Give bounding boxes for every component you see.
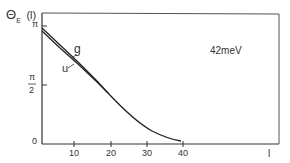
- x-tick-label-30: 30: [142, 148, 152, 158]
- x-tick-label-10: 10: [69, 148, 79, 158]
- u-leader: [68, 64, 74, 68]
- y-tick-label-zero: 0: [32, 136, 37, 146]
- theta-symbol: Θ: [6, 7, 16, 22]
- curve-g: [42, 28, 181, 141]
- y-tick-label-pi-half-den: 2: [29, 85, 34, 95]
- y-tick-label-pi: π: [32, 19, 38, 29]
- x-tick-label-20: 20: [106, 148, 116, 158]
- curve-u: [42, 31, 108, 93]
- x-tick-label-40: 40: [178, 148, 188, 158]
- plot-frame: [0, 0, 290, 163]
- y-tick-label-pi-half-num: π: [29, 72, 35, 82]
- series-label-g: g: [74, 42, 81, 56]
- series-label-u: u: [62, 62, 68, 74]
- x-axis-label: l: [268, 148, 270, 159]
- top-border: [42, 13, 279, 14]
- energy-annotation: 42meV: [210, 45, 242, 56]
- theta-subscript: E: [16, 17, 21, 24]
